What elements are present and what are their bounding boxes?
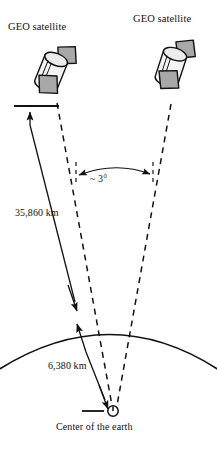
sight-line-right <box>116 104 171 411</box>
geo-satellite-icon-left <box>31 37 82 101</box>
label-geo-satellite-left: GEO satellite <box>8 22 66 33</box>
label-angle: ~ 3° <box>90 174 107 184</box>
geo-satellite-diagram: GEO satellite GEO satellite ~ 3° 35,860 … <box>0 0 217 450</box>
label-earth-center: Center of the earth <box>56 422 133 432</box>
label-earth-radius: 6,380 km <box>48 361 87 371</box>
label-altitude: 35,860 km <box>15 208 59 218</box>
angle-measure <box>76 162 153 186</box>
geo-satellite-icon-right <box>152 32 200 95</box>
label-geo-satellite-right: GEO satellite <box>133 14 191 25</box>
earth-center-icon <box>108 406 118 416</box>
earth-arc-icon <box>0 335 217 373</box>
diagram-canvas <box>0 0 217 450</box>
